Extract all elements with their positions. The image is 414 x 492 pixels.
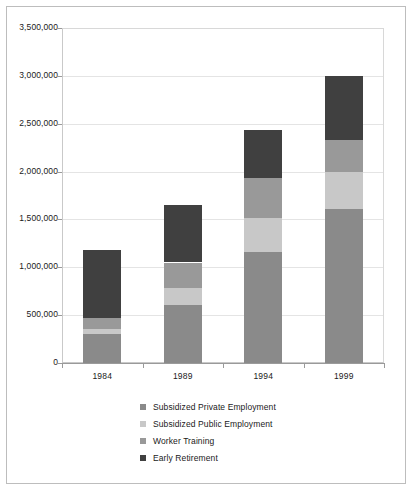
y-axis-tick-label: 2,000,000 — [2, 167, 58, 176]
bar-segment[interactable] — [83, 250, 121, 318]
bar-segment[interactable] — [244, 218, 282, 252]
bar-segment[interactable] — [164, 263, 202, 289]
x-axis-tick-label: 1994 — [233, 371, 293, 381]
x-axis-tick-label: 1999 — [314, 371, 374, 381]
bar-segment[interactable] — [325, 76, 363, 140]
y-axis-tick-label: 2,500,000 — [2, 119, 58, 128]
x-axis-tick-label: 1989 — [153, 371, 213, 381]
bar-segment[interactable] — [83, 318, 121, 329]
y-axis-tick-label: 0 — [2, 358, 58, 367]
chart-legend: Subsidized Private EmploymentSubsidized … — [140, 398, 276, 466]
legend-item[interactable]: Subsidized Public Employment — [140, 415, 276, 432]
y-axis-labels: 0500,0001,000,0001,500,0002,000,0002,500… — [0, 0, 58, 400]
legend-swatch-icon — [140, 421, 146, 427]
x-axis-tick-mark — [384, 363, 385, 368]
legend-swatch-icon — [140, 455, 146, 461]
bar-segment[interactable] — [325, 209, 363, 363]
legend-label: Worker Training — [153, 436, 214, 446]
bar-1994[interactable] — [244, 28, 282, 363]
legend-swatch-icon — [140, 438, 146, 444]
bar-segment[interactable] — [164, 288, 202, 304]
bar-segment[interactable] — [325, 140, 363, 172]
bar-1999[interactable] — [325, 28, 363, 363]
y-axis-tick-label: 3,500,000 — [2, 23, 58, 32]
x-axis-tick-mark — [304, 363, 305, 368]
bar-segment[interactable] — [325, 172, 363, 209]
x-axis-tick-mark — [62, 363, 63, 368]
bar-segment[interactable] — [244, 252, 282, 363]
y-axis-tick-label: 3,000,000 — [2, 71, 58, 80]
legend-item[interactable]: Worker Training — [140, 432, 276, 449]
y-axis-line — [62, 28, 63, 364]
bar-segment[interactable] — [83, 334, 121, 363]
legend-item[interactable]: Subsidized Private Employment — [140, 398, 276, 415]
legend-item[interactable]: Early Retirement — [140, 449, 276, 466]
bar-1989[interactable] — [164, 28, 202, 363]
y-axis-tick-label: 1,000,000 — [2, 262, 58, 271]
legend-label: Subsidized Public Employment — [153, 419, 273, 429]
bar-segment[interactable] — [244, 130, 282, 178]
legend-swatch-icon — [140, 404, 146, 410]
bar-segment[interactable] — [83, 329, 121, 335]
y-axis-tick-label: 1,500,000 — [2, 214, 58, 223]
bar-segment[interactable] — [244, 178, 282, 218]
x-axis-tick-mark — [143, 363, 144, 368]
bar-segment[interactable] — [164, 305, 202, 363]
bar-1984[interactable] — [83, 28, 121, 363]
x-axis-tick-label: 1984 — [72, 371, 132, 381]
stacked-bar-chart: 0500,0001,000,0001,500,0002,000,0002,500… — [0, 0, 414, 492]
bar-segment[interactable] — [164, 205, 202, 262]
y-axis-tick-label: 500,000 — [2, 310, 58, 319]
legend-label: Subsidized Private Employment — [153, 402, 276, 412]
legend-label: Early Retirement — [153, 453, 218, 463]
x-axis-tick-mark — [223, 363, 224, 368]
